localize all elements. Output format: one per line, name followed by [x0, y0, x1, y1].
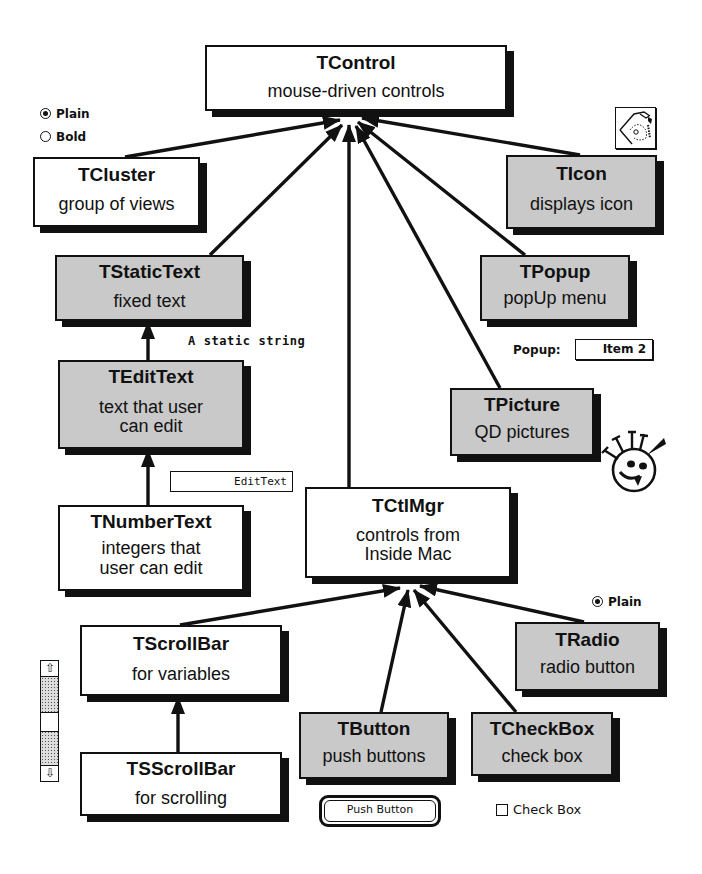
node-tsscrollbar: TSScrollBar for scrolling	[80, 752, 282, 816]
node-tradio: TRadio radio button	[515, 622, 660, 691]
checkbox-unchecked-icon	[496, 804, 508, 816]
node-title: TCheckBox	[473, 718, 611, 740]
node-tscrollbar: TScrollBar for variables	[80, 625, 282, 696]
node-tnumbertext: TNumberText integers that user can edit	[58, 505, 244, 591]
node-ticon: TIcon displays icon	[506, 155, 657, 229]
popup-label: Popup:	[513, 343, 561, 357]
node-description: popUp menu	[482, 288, 628, 309]
radio-label: Plain	[56, 107, 90, 121]
scroll-thumb[interactable]	[41, 712, 58, 732]
node-title: TButton	[301, 718, 447, 740]
node-tbutton: TButton push buttons	[299, 712, 449, 779]
node-title: TPopup	[482, 261, 628, 283]
node-title: TControl	[207, 52, 505, 74]
node-tcluster: TCluster group of views	[33, 157, 200, 227]
hand-icon	[616, 108, 654, 147]
node-tpopup: TPopup popUp menu	[480, 255, 630, 321]
icon-sample	[615, 107, 656, 149]
node-title: TEditText	[60, 366, 242, 388]
node-title: TCtlMgr	[307, 495, 509, 517]
node-title: TCluster	[35, 164, 198, 186]
radio-unselected-icon	[40, 131, 51, 142]
node-title: TPicture	[452, 394, 592, 416]
cluster-radio-bold[interactable]: Bold	[40, 130, 86, 144]
push-button[interactable]: Push Button	[319, 795, 441, 827]
edit-text-field[interactable]: EditText	[170, 471, 293, 492]
node-description: radio button	[517, 657, 658, 678]
scroll-down-arrow-icon[interactable]: ⇩	[41, 765, 58, 781]
node-description: for scrolling	[82, 788, 280, 809]
push-button-label: Push Button	[324, 800, 436, 822]
node-tcontrol: TControl mouse-driven controls	[205, 45, 507, 111]
cluster-radio-plain[interactable]: Plain	[40, 107, 90, 121]
popup-value: Item 2	[603, 342, 646, 356]
radio-label: Plain	[608, 595, 642, 609]
node-description: check box	[473, 746, 611, 767]
radio-sample[interactable]: Plain	[592, 595, 642, 609]
node-description: text that user can edit	[60, 398, 242, 436]
check-box-label: Check Box	[513, 802, 581, 817]
picture-sample	[598, 428, 670, 494]
class-hierarchy-diagram: TControl mouse-driven controls TCluster …	[0, 0, 702, 874]
smiley-face-picture	[598, 428, 670, 494]
node-description: displays icon	[508, 194, 655, 215]
node-description: controls from Inside Mac	[307, 526, 509, 564]
node-tctlmgr: TCtlMgr controls from Inside Mac	[305, 487, 511, 578]
static-string-sample: A static string	[188, 334, 305, 348]
popup-menu[interactable]: Item 2	[575, 339, 653, 360]
node-description: QD pictures	[452, 422, 592, 443]
node-tpicture: TPicture QD pictures	[450, 388, 594, 456]
node-title: TNumberText	[60, 511, 242, 533]
node-title: TRadio	[517, 629, 658, 651]
node-title: TIcon	[508, 163, 655, 185]
node-title: TSScrollBar	[82, 758, 280, 780]
edit-text-value: EditText	[234, 475, 287, 488]
node-description: integers that user can edit	[60, 539, 242, 578]
scroll-up-arrow-icon[interactable]: ⇧	[41, 661, 58, 677]
node-tedittext: TEditText text that user can edit	[58, 360, 244, 449]
node-description: group of views	[35, 194, 198, 215]
node-description: fixed text	[57, 291, 242, 312]
node-title: TScrollBar	[82, 633, 280, 655]
node-description: mouse-driven controls	[207, 81, 505, 102]
radio-selected-icon	[40, 108, 51, 119]
node-title: TStaticText	[57, 261, 242, 283]
radio-selected-icon	[592, 596, 603, 607]
node-tstatictext: TStaticText fixed text	[55, 255, 244, 321]
node-description: for variables	[82, 664, 280, 685]
node-description: push buttons	[301, 746, 447, 767]
radio-label: Bold	[56, 130, 86, 144]
vertical-scrollbar[interactable]: ⇧ ⇩	[40, 660, 59, 782]
node-tcheckbox: TCheckBox check box	[471, 712, 613, 776]
check-box[interactable]: Check Box	[496, 802, 581, 817]
